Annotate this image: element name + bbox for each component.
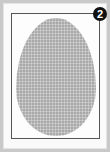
figure-frame: 2	[11, 13, 100, 139]
egg-shape	[16, 18, 96, 136]
number-badge: 2	[93, 7, 107, 21]
figure-card: 2	[3, 3, 107, 149]
